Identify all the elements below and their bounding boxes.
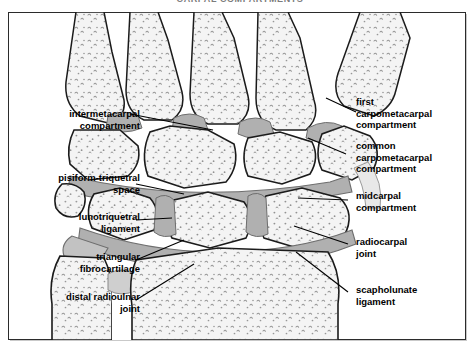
label-intermetacarpal-compartment: intermetacarpal compartment (18, 108, 140, 131)
label-layer: intermetacarpal compartment pisiform-tri… (0, 0, 476, 356)
label-scapholunate-ligament: scapholunate ligament (356, 284, 472, 307)
label-midcarpal-compartment: midcarpal compartment (356, 190, 472, 213)
label-common-carpometacarpal-compartment: common carpometacarpal compartment (356, 140, 472, 175)
label-first-carpometacarpal-compartment: first carpometacarpal compartment (356, 96, 472, 131)
label-radiocarpal-joint: radiocarpal joint (356, 236, 472, 259)
wrist-anatomy-figure: CARPAL COMPARTMENTS (0, 0, 476, 356)
label-pisiform-triquetral-space: pisiform-triquetral space (14, 172, 140, 195)
label-distal-radioulnar-joint: distal radioulnar joint (20, 291, 140, 314)
label-lunotriquetral-ligament: lunotriquetral ligament (22, 211, 140, 234)
label-triangular-fibrocartilage: triangular fibrocartilage (26, 251, 140, 274)
